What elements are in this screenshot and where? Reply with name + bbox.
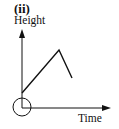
y-axis-arrow-icon [19,29,25,38]
x-axis-label: Time [78,113,102,125]
height-time-graph [0,0,119,129]
x-axis-arrow-icon [102,105,111,111]
height-curve [22,50,72,93]
